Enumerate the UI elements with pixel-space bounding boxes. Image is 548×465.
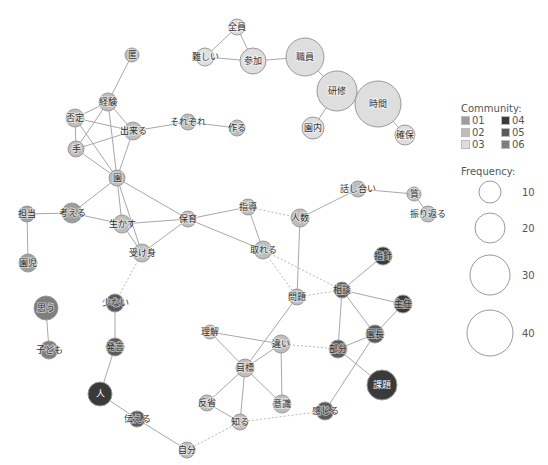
node-hatsugen[interactable]: 発言 — [106, 338, 124, 356]
community-legend-title: Community: — [461, 103, 541, 114]
node-kanjiru[interactable]: 感じる — [312, 402, 339, 420]
node-omou[interactable]: 思う — [34, 296, 58, 320]
node-label: 研修 — [328, 85, 346, 96]
node-hanashiai[interactable]: 話し合い — [340, 181, 376, 197]
node-te[interactable]: 手 — [68, 141, 84, 157]
node-shitsu[interactable]: 質 — [407, 187, 421, 201]
node-label: 時間 — [369, 99, 387, 109]
node-keiken[interactable]: 経験 — [99, 93, 117, 111]
node-shokuin[interactable]: 職員 — [286, 38, 324, 76]
node-kakuho[interactable]: 確保 — [395, 125, 415, 145]
node-label: 主任 — [394, 298, 412, 309]
node-en[interactable]: 園 — [109, 170, 125, 186]
node-label: それぞれ — [170, 117, 206, 127]
node-sodan[interactable]: 相談 — [333, 282, 351, 298]
node-kadai[interactable]: 課題 — [367, 370, 397, 400]
node-jikan[interactable]: 時間 — [355, 81, 401, 127]
community-legend-grid: 010402050306 — [461, 115, 541, 150]
node-ishiki[interactable]: 意識 — [273, 395, 291, 413]
node-label: 感じる — [312, 405, 339, 416]
node-dekiru[interactable]: 出来る — [120, 122, 147, 140]
node-label: 思う — [37, 303, 55, 313]
node-bubun[interactable]: 部分 — [329, 340, 347, 358]
node-sukunai[interactable]: 少ない — [102, 294, 129, 312]
node-label: 出来る — [120, 125, 147, 136]
node-label: 全員 — [228, 21, 246, 32]
node-label: 受け身 — [129, 247, 156, 258]
node-mondai[interactable]: 問題 — [288, 289, 306, 305]
node-label: 目標 — [236, 362, 254, 373]
nodes-layer: 全員難しい参加職員研修時間園内確保匿経験否定出来るそれぞれ作る手園担当考える園児… — [18, 19, 446, 458]
node-label: 意識 — [273, 398, 291, 409]
node-label: 指針 — [374, 250, 392, 261]
community-label: 02 — [472, 127, 485, 138]
community-label: 01 — [472, 115, 485, 126]
community-swatch — [501, 140, 510, 149]
node-label: 匿 — [128, 50, 137, 60]
node-furikaeru[interactable]: 振り返る — [410, 206, 446, 222]
node-label: 発言 — [106, 341, 124, 352]
community-legend: Community: 010402050306 — [461, 103, 541, 150]
node-label: 違い — [272, 338, 290, 349]
node-hansei[interactable]: 反省 — [198, 395, 216, 411]
community-swatch — [501, 116, 510, 125]
community-swatch — [461, 116, 470, 125]
community-label: 05 — [512, 127, 525, 138]
node-label: 園 — [113, 173, 122, 183]
node-label: 手 — [72, 143, 81, 154]
node-hito[interactable]: 人 — [88, 382, 112, 406]
node-label: 難しい — [192, 51, 219, 62]
community-01: 01 — [461, 115, 501, 126]
node-label: 職員 — [296, 52, 314, 62]
edge-toreru-sodan — [263, 250, 342, 290]
node-chigai[interactable]: 違い — [272, 335, 290, 353]
node-label: 部分 — [329, 343, 347, 354]
node-hoiku[interactable]: 保育 — [179, 211, 197, 227]
node-ukemi[interactable]: 受け身 — [129, 244, 156, 262]
node-zenin[interactable]: 全員 — [228, 19, 246, 35]
node-label: 確保 — [396, 129, 414, 140]
node-label: 理解 — [201, 326, 219, 337]
node-toreru[interactable]: 取れる — [250, 241, 277, 259]
node-label: 課題 — [373, 379, 391, 390]
node-label: 生かす — [109, 218, 136, 229]
node-hitei[interactable]: 否定 — [66, 109, 84, 127]
node-label: 参加 — [244, 55, 262, 66]
node-ninzu[interactable]: 人数 — [291, 209, 309, 227]
node-label: 経験 — [99, 96, 117, 107]
node-toku[interactable]: 匿 — [125, 48, 139, 62]
node-sorezore[interactable]: それぞれ — [170, 114, 206, 130]
edge-ninzu-mondai — [297, 218, 300, 297]
edge-mondai-mokuhyo — [245, 297, 297, 368]
node-label: 人 — [96, 389, 105, 399]
node-muzukashii[interactable]: 難しい — [192, 48, 219, 66]
node-jibun[interactable]: 自分 — [178, 442, 196, 458]
node-shishin[interactable]: 指針 — [374, 247, 392, 265]
node-encho[interactable]: 園長 — [366, 325, 384, 343]
node-label: 知る — [231, 416, 249, 427]
node-shiru[interactable]: 知る — [231, 414, 249, 430]
community-swatch — [501, 128, 510, 137]
node-label: 園児 — [19, 258, 37, 268]
community-03: 03 — [461, 139, 501, 150]
node-mokuhyo[interactable]: 目標 — [236, 359, 254, 377]
node-rikai[interactable]: 理解 — [201, 325, 219, 339]
node-kenshu[interactable]: 研修 — [317, 71, 357, 111]
node-shunin[interactable]: 主任 — [394, 295, 412, 313]
node-label: 取れる — [250, 245, 277, 255]
node-kodomo[interactable]: 子ども — [36, 341, 63, 359]
node-label: 否定 — [66, 112, 84, 123]
node-shido[interactable]: 指導 — [239, 199, 257, 215]
community-06: 06 — [501, 139, 541, 150]
node-tsukuru[interactable]: 作る — [228, 120, 246, 136]
node-label: 子ども — [36, 345, 63, 355]
node-label: 振り返る — [410, 208, 446, 219]
node-tanto[interactable]: 担当 — [18, 206, 36, 222]
node-label: 考える — [59, 208, 86, 218]
node-ennai[interactable]: 園内 — [302, 117, 324, 139]
node-ikasu[interactable]: 生かす — [109, 215, 136, 233]
community-label: 06 — [512, 139, 525, 150]
node-sanka[interactable]: 参加 — [240, 48, 266, 74]
node-enji[interactable]: 園児 — [19, 254, 37, 272]
community-label: 03 — [472, 139, 485, 150]
